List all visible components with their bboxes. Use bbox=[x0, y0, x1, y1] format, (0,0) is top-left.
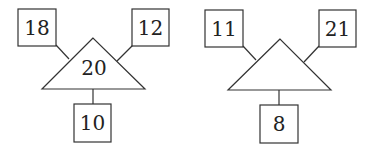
value-top-right: 12 bbox=[138, 16, 163, 40]
value-bottom: 8 bbox=[273, 112, 286, 136]
value-top-right: 21 bbox=[325, 17, 350, 41]
value-top-left: 18 bbox=[24, 16, 49, 40]
diagram-2: 11 21 8 bbox=[205, 10, 356, 143]
diagram-1: 18 12 20 10 bbox=[18, 9, 169, 142]
connector-top-left bbox=[56, 45, 69, 59]
connector-top-right bbox=[117, 45, 133, 61]
value-top-left: 11 bbox=[211, 17, 236, 41]
connector-top-right bbox=[304, 46, 319, 62]
value-bottom: 10 bbox=[80, 111, 105, 135]
connector-top-left bbox=[243, 46, 256, 60]
value-center: 20 bbox=[81, 56, 106, 80]
number-puzzle-canvas: 18 12 20 10 11 21 8 bbox=[0, 0, 374, 154]
